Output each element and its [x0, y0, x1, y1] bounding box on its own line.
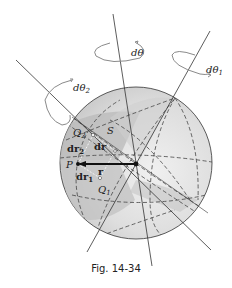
label-d-theta-2: dθ2 [73, 82, 90, 95]
label-d-theta: dθ [131, 47, 143, 58]
figure-caption: Fig. 14-34 [0, 263, 232, 274]
point-center [134, 162, 139, 167]
label-r: r [98, 166, 104, 177]
point-Q2 [91, 133, 94, 136]
point-S [114, 150, 117, 153]
label-S: S [107, 125, 114, 136]
point-P [76, 162, 80, 166]
label-dr: dr [94, 141, 107, 152]
rotation-arrow-d-theta-2 [45, 80, 72, 125]
label-P: P [65, 159, 73, 170]
label-d-theta-1: dθ1 [206, 64, 223, 77]
rotation-arrow-d-theta-1 [172, 52, 210, 75]
sphere-rotation-diagram: dθ dθ1 dθ2 Q2 S dr2 dr P r dr1 Q1 [0, 0, 232, 288]
